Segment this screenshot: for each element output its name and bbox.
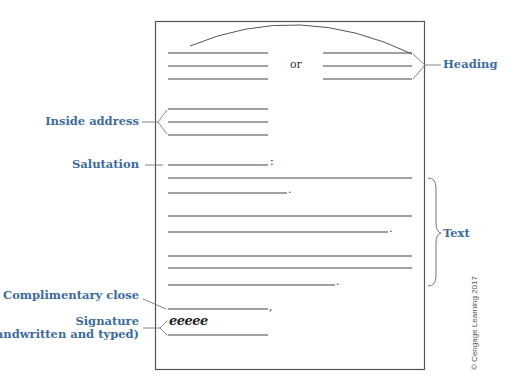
complimentary-close-leader	[143, 299, 166, 309]
heading-lines-left	[168, 53, 268, 79]
heading-arc	[190, 25, 412, 54]
copyright-notice: © Cengage Learning 2017	[470, 276, 479, 370]
heading-lines-right	[323, 53, 412, 79]
label-signature-line2: (handwritten and typed)	[0, 328, 139, 341]
letter-format-diagram: : . . . , or eeeee Heading Inside addres…	[0, 0, 516, 392]
text-period-2: .	[389, 222, 393, 235]
label-complimentary-close: Complimentary close	[3, 289, 139, 302]
text-brace	[428, 178, 441, 286]
heading-leader	[413, 54, 441, 79]
heading-or-separator: or	[290, 58, 302, 71]
text-period-1: .	[288, 183, 292, 196]
inside-address-lines	[168, 109, 268, 135]
salutation-colon: :	[270, 155, 274, 168]
label-salutation: Salutation	[72, 158, 139, 171]
text-period-3: .	[336, 275, 340, 288]
label-text: Text	[443, 227, 470, 240]
close-comma: ,	[269, 300, 273, 313]
handwritten-signature: eeeee	[169, 313, 208, 328]
label-signature: Signature (handwritten and typed)	[0, 315, 139, 341]
label-inside-address: Inside address	[45, 115, 139, 128]
label-heading: Heading	[443, 58, 497, 71]
inside-address-leader	[142, 110, 167, 134]
